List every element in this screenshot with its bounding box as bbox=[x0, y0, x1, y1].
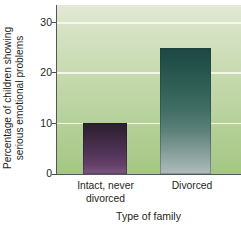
x-tick-label-intact-line-2: divorced bbox=[59, 193, 152, 206]
y-tick-label-10: 10 bbox=[30, 118, 52, 129]
x-tick-label-divorced-line-1: Divorced bbox=[152, 180, 232, 193]
y-tick-label-20: 20 bbox=[30, 67, 52, 78]
x-tick-label-intact: Intact, never divorced bbox=[59, 180, 152, 205]
x-tick-label-intact-line-1: Intact, never bbox=[59, 180, 152, 193]
gridline-30 bbox=[57, 22, 241, 24]
plot-area bbox=[57, 5, 241, 174]
y-axis-title-line-1: Percentage of children showing bbox=[2, 27, 15, 169]
x-tick-label-divorced: Divorced bbox=[152, 180, 232, 193]
y-axis-title: Percentage of children showing serious e… bbox=[0, 13, 29, 183]
y-axis-title-line-2: serious emotional problems bbox=[14, 36, 27, 161]
bar-divorced[interactable] bbox=[160, 48, 211, 175]
bar-intact-never-divorced[interactable] bbox=[83, 123, 127, 174]
y-tick-label-0: 0 bbox=[30, 168, 52, 179]
y-axis-line bbox=[56, 5, 57, 175]
bar-chart: Percentage of children showing serious e… bbox=[0, 0, 241, 227]
gridline-20 bbox=[57, 72, 241, 74]
x-axis-title: Type of family bbox=[56, 210, 241, 222]
x-axis-line bbox=[56, 174, 241, 175]
y-tick-label-30: 30 bbox=[30, 17, 52, 28]
